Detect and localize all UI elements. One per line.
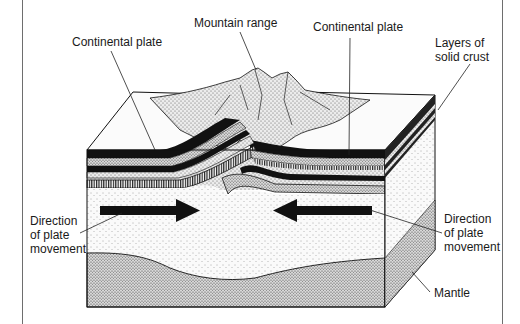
- label-direction-of-plate-movement-left: Direction of plate movement: [30, 214, 86, 256]
- label-line: Direction: [444, 212, 500, 226]
- label-continental-plate-right: Continental plate: [313, 20, 403, 34]
- label-layers-of-solid-crust: Layers of solid crust: [435, 36, 489, 64]
- label-mountain-range: Mountain range: [194, 16, 277, 30]
- label-direction-of-plate-movement-right: Direction of plate movement: [444, 212, 500, 254]
- label-mantle: Mantle: [434, 286, 470, 300]
- label-continental-plate-left: Continental plate: [72, 35, 162, 49]
- leader-layers-solid-crust: [438, 64, 470, 110]
- label-line: Layers of: [435, 36, 489, 50]
- label-line: movement: [444, 240, 500, 254]
- label-line: of plate: [30, 228, 86, 242]
- label-line: of plate: [444, 226, 500, 240]
- label-line: movement: [30, 242, 86, 256]
- leader-mountain-range: [240, 32, 256, 70]
- label-line: Direction: [30, 214, 86, 228]
- leader-mantle: [412, 272, 430, 292]
- label-line: solid crust: [435, 50, 489, 64]
